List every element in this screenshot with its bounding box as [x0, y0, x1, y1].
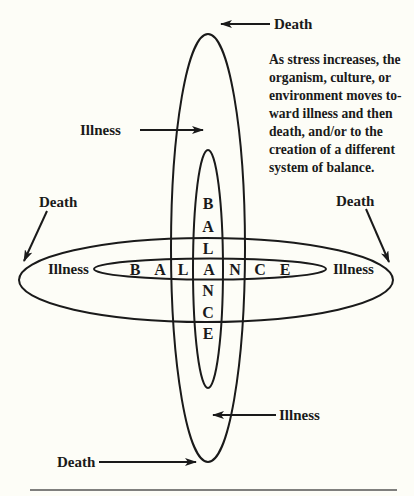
- balance-v-letter: N: [202, 282, 214, 299]
- label-death-left: Death: [39, 194, 78, 210]
- balance-h-letter: L: [178, 261, 189, 278]
- balance-v-letter: C: [202, 304, 214, 321]
- caption-line: ward illness and then: [269, 105, 414, 123]
- caption-line: As stress increases, the: [269, 51, 414, 69]
- label-death-top: Death: [274, 16, 313, 32]
- balance-h-letter: A: [154, 261, 166, 278]
- balance-v-letter: A: [202, 218, 214, 235]
- label-death-right: Death: [336, 193, 375, 209]
- caption-line: system of balance.: [269, 159, 414, 177]
- caption-line: organism, culture, or: [269, 69, 414, 87]
- balance-h-letter: A: [203, 261, 215, 278]
- stress-balance-diagram: Death Illness Death Death Illness Illnes…: [0, 0, 414, 496]
- balance-horizontal: B A L A N C E: [130, 261, 291, 278]
- label-illness-right: Illness: [333, 261, 374, 277]
- caption-line: death, and/or to the: [269, 123, 414, 141]
- balance-v-letter: E: [203, 325, 214, 342]
- label-illness-upper-left: Illness: [80, 122, 121, 138]
- caption-line: creation of a different: [269, 141, 414, 159]
- label-death-bottom: Death: [57, 454, 96, 470]
- balance-h-letter: N: [229, 261, 241, 278]
- balance-v-letter: L: [203, 240, 214, 257]
- balance-h-letter: C: [254, 261, 266, 278]
- arrow-death-right: [366, 209, 389, 262]
- balance-h-letter: E: [280, 261, 291, 278]
- caption-line: environment moves to-: [269, 87, 414, 105]
- label-illness-lower-right: Illness: [279, 407, 320, 423]
- balance-h-letter: B: [130, 261, 141, 278]
- arrow-death-left: [24, 211, 47, 261]
- label-illness-left: Illness: [48, 261, 89, 277]
- balance-v-letter: B: [203, 195, 214, 212]
- explanatory-caption: As stress increases, the organism, cultu…: [269, 51, 414, 177]
